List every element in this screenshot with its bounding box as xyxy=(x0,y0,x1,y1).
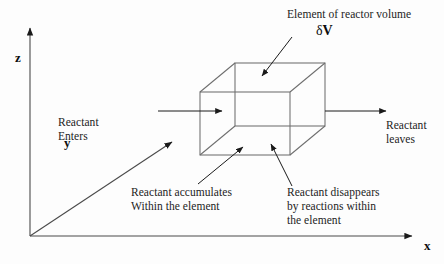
cube-edge-top-right xyxy=(290,63,325,92)
disappear-label-line1: Reactant disappears xyxy=(287,186,380,200)
inlet-label-line1: Reactant xyxy=(58,116,99,130)
disappear-label-line2: by reactions within xyxy=(287,200,376,214)
volume-symbol: δV xyxy=(316,23,333,39)
accumulate-label-line2: Within the element xyxy=(131,200,220,214)
cube-edge-bottom-right xyxy=(290,126,325,155)
cube-front-face xyxy=(200,92,290,155)
outlet-label-line1: Reactant xyxy=(386,119,427,133)
accumulate-label-line1: Reactant accumulates xyxy=(131,186,232,200)
disappear-label-leader xyxy=(271,144,292,186)
reactor-volume-cube xyxy=(200,63,325,155)
v-glyph: V xyxy=(323,23,333,38)
delta-glyph: δ xyxy=(316,23,323,38)
x-axis-label: x xyxy=(424,238,431,254)
accumulate-label-leader xyxy=(198,147,243,184)
cube-back-face xyxy=(235,63,325,126)
z-axis-label: z xyxy=(15,50,21,66)
disappear-label-line3: the element xyxy=(287,214,341,228)
cube-edge-bottom-left xyxy=(200,126,235,155)
volume-title-label: Element of reactor volume xyxy=(264,8,434,22)
cube-edge-top-left xyxy=(200,63,235,92)
volume-label-leader xyxy=(262,37,292,76)
outlet-label-line2: leaves xyxy=(386,133,415,147)
inlet-label-line2: Enters xyxy=(58,130,88,144)
reactor-element-diagram: Element of reactor volume δV z y x React… xyxy=(0,0,444,264)
